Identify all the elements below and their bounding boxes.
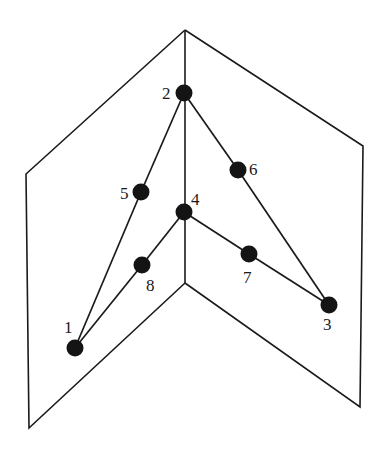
node-label-6: 6: [249, 160, 258, 179]
graph-nodes: [67, 85, 338, 357]
node-1: [67, 340, 84, 357]
node-6: [230, 162, 247, 179]
node-label-3: 3: [323, 315, 332, 334]
node-label-1: 1: [64, 318, 73, 337]
node-4: [176, 204, 193, 221]
node-label-4: 4: [191, 190, 200, 209]
node-label-5: 5: [120, 184, 129, 203]
node-8: [134, 257, 151, 274]
edge-2-6: [184, 93, 238, 170]
node-5: [133, 184, 150, 201]
edge-7-3: [249, 254, 329, 305]
edge-5-2: [141, 93, 184, 192]
folded-plane-graph-diagram: 12345678: [0, 0, 386, 456]
node-label-2: 2: [162, 84, 171, 103]
edge-8-4: [142, 212, 184, 265]
node-2: [176, 85, 193, 102]
graph-edges: [75, 93, 329, 348]
node-labels: 12345678: [64, 84, 332, 337]
node-3: [321, 297, 338, 314]
node-label-8: 8: [146, 276, 155, 295]
node-label-7: 7: [243, 268, 252, 287]
edge-6-3: [238, 170, 329, 305]
node-7: [241, 246, 258, 263]
planes: [26, 30, 363, 428]
right-plane-outline: [185, 30, 363, 407]
edge-4-7: [184, 212, 249, 254]
edge-1-5: [75, 192, 141, 348]
edge-1-8: [75, 265, 142, 348]
